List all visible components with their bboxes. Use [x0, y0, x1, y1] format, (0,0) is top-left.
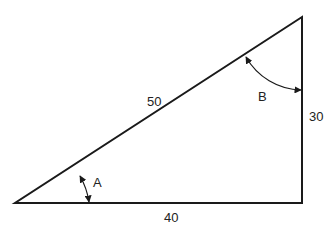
right-triangle [15, 17, 302, 203]
triangle-diagram: 50 30 40 A B [0, 0, 335, 230]
angle-b-arc [246, 57, 301, 90]
base-label: 40 [164, 210, 178, 225]
hypotenuse-label: 50 [147, 94, 161, 109]
vertical-side-label: 30 [309, 109, 323, 124]
angle-a-label: A [93, 175, 102, 190]
angle-a-arc [80, 176, 89, 202]
angle-b-label: B [258, 89, 267, 104]
